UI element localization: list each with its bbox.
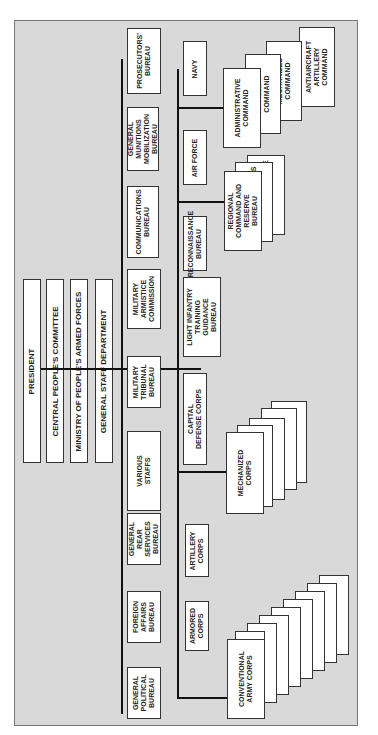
navy-box: NAVY [183, 41, 207, 96]
label: ARMORED CORPS [189, 608, 205, 644]
label: CONVENTIONAL ARMY CORPS [238, 651, 254, 707]
mechanized-corps-box: MECHANIZED CORPS [226, 432, 264, 514]
connector [177, 201, 224, 203]
ministry-label: MINISTRY OF PEOPLE'S ARMED FORCES [75, 291, 84, 451]
president-label: PRESIDENT [28, 348, 37, 394]
label: RECONNAISSANCE BUREAU [187, 210, 203, 277]
label: CAPITAL DEFENSE CORPS [187, 389, 203, 449]
various-staffs-box: VARIOUS STAFFS [127, 431, 161, 511]
regional-command-box: REGIONAL COMMAND AND RESERVE BUREAU [224, 171, 262, 251]
label: MECHANIZED CORPS [237, 450, 253, 497]
prosecutors-bureau-box: PROSECUTORS' BUREAU [127, 28, 161, 94]
label: ANTIAIRCRAFT ARTILLERY COMMAND [305, 41, 329, 93]
label: ADMINISTRATIVE COMMAND [234, 79, 250, 138]
foreign-affairs-bureau-box: FOREIGN AFFAIRS BUREAU [127, 591, 161, 643]
label: VARIOUS STAFFS [136, 455, 152, 486]
label: COMMUNICATIONS BUREAU [135, 189, 151, 254]
label: LIGHT INFANTRY TRAINING GUIDANCE BUREAU [186, 288, 218, 346]
label: FOREIGN AFFAIRS BUREAU [132, 601, 156, 633]
political-bureau-box: GENERAL POLITICAL BUREAU [127, 667, 161, 719]
general-staff-box: GENERAL STAFF DEPARTMENT [95, 279, 113, 463]
conventional-army-corps-box: CONVENTIONAL ARMY CORPS [227, 639, 265, 719]
label: MILITARY ARMISTICE COMMISSION [132, 276, 156, 322]
connector [177, 471, 226, 473]
org-chart: PRESIDENT CENTRAL PEOPLE'S COMMITTEE MIN… [14, 20, 358, 726]
label: ARTILLERY CORPS [189, 531, 205, 570]
connector [177, 697, 227, 699]
label: GENERAL REAR SERVICES BUREAU [128, 521, 160, 556]
connector [177, 107, 223, 109]
forces-spine [177, 69, 179, 699]
light-infantry-bureau-box: LIGHT INFANTRY TRAINING GUIDANCE BUREAU [183, 277, 221, 357]
antiaircraft-command-box: ANTIAIRCRAFT ARTILLERY COMMAND [299, 27, 335, 107]
munitions-bureau-box: GENERAL MUNITIONS MOBILIZATION BUREAU [127, 107, 159, 171]
label: GENERAL POLITICAL BUREAU [132, 675, 156, 712]
artillery-corps-box: ARTILLERY CORPS [185, 524, 209, 577]
reconnaissance-bureau-box: RECONNAISSANCE BUREAU [183, 216, 207, 271]
central-peoples-committee-box: CENTRAL PEOPLE'S COMMITTEE [46, 279, 64, 463]
administrative-command-box: ADMINISTRATIVE COMMAND [223, 68, 261, 148]
label: AIR FORCE [191, 138, 199, 177]
tribunal-bureau-box: MILITARY TRIBUNAL BUREAU [127, 356, 161, 408]
ministry-box: MINISTRY OF PEOPLE'S ARMED FORCES [70, 279, 88, 463]
label: MILITARY TRIBUNAL BUREAU [132, 364, 156, 400]
armored-corps-box: ARMORED CORPS [185, 601, 209, 651]
label: PROSECUTORS' BUREAU [136, 33, 152, 89]
president-box: PRESIDENT [23, 279, 41, 463]
label: REGIONAL COMMAND AND RESERVE BUREAU [227, 184, 259, 238]
label: GENERAL MUNITIONS MOBILIZATION BUREAU [127, 114, 159, 164]
bureau-spine [121, 59, 123, 714]
rear-services-bureau-box: GENERAL REAR SERVICES BUREAU [127, 513, 161, 565]
general-staff-label: GENERAL STAFF DEPARTMENT [100, 309, 109, 433]
capital-defense-corps-box: CAPITAL DEFENSE CORPS [183, 373, 207, 465]
central-committee-label: CENTRAL PEOPLE'S COMMITTEE [51, 306, 60, 436]
air-force-box: AIR FORCE [183, 130, 207, 185]
communications-bureau-box: COMMUNICATIONS BUREAU [127, 186, 159, 258]
label: NAVY [191, 59, 199, 78]
armistice-commission-box: MILITARY ARMISTICE COMMISSION [127, 269, 161, 329]
